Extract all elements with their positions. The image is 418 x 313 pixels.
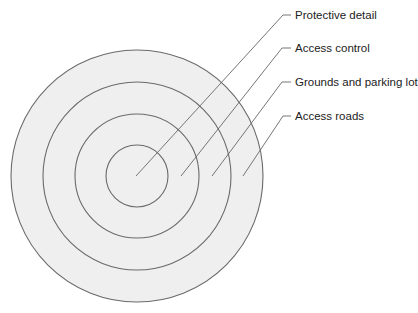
label-access-control: Access control — [295, 41, 370, 55]
label-protective-detail: Protective detail — [295, 8, 377, 22]
ring-protective-detail — [106, 145, 168, 207]
label-access-roads: Access roads — [295, 109, 364, 123]
label-grounds-and-parking-lot: Grounds and parking lot — [295, 75, 418, 89]
rings-group — [11, 50, 263, 302]
